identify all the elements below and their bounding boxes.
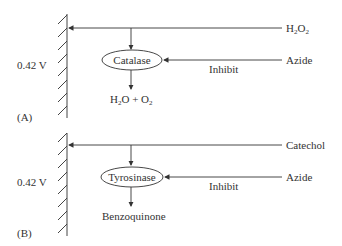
inhibit-label-b: Inhibit [209, 180, 238, 192]
potential-label-b: 0.42 V [17, 176, 47, 188]
enzyme-label-b: Tyrosinase [101, 171, 163, 183]
product-label-b: Benzoquinone [102, 210, 166, 222]
inhibit-label-a: Inhibit [209, 63, 238, 75]
substrate-label-a: H2O2 [286, 22, 309, 38]
electrode-b [58, 133, 67, 236]
panel-label-b: (B) [17, 227, 32, 239]
inhibitor-label-a: Azide [286, 54, 312, 66]
potential-label-a: 0.42 V [17, 59, 47, 71]
arrows-a [69, 28, 282, 89]
substrate-label-b: Catechol [286, 139, 325, 151]
inhibitor-label-b: Azide [286, 171, 312, 183]
electrode-a [58, 14, 67, 118]
enzyme-label-a: Catalase [102, 54, 162, 66]
panel-label-a: (A) [17, 111, 32, 123]
product-label-a: H2O + O2 [110, 93, 153, 109]
